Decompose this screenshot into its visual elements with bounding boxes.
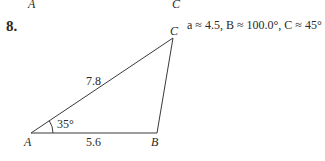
vertex-b-label: B [151,135,158,150]
vertex-c-label: C [170,24,178,39]
angle-a-value: 35° [57,117,74,132]
side-ab-length: 5.6 [86,135,101,150]
vertex-a-label: A [24,135,31,150]
side-ac-length: 7.8 [86,74,101,89]
side-bc [157,38,173,133]
angle-a-arc [49,121,53,133]
side-ac [31,38,173,133]
triangle-diagram [0,0,325,161]
